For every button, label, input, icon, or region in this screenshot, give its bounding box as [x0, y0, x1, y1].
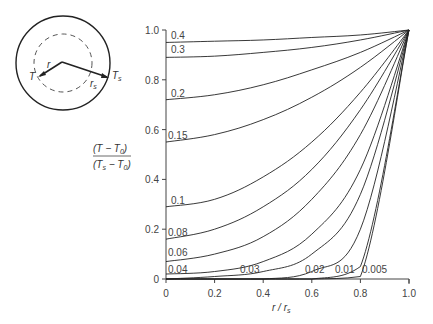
- curve-0.06: [166, 30, 409, 262]
- inset-label-T: T: [29, 71, 36, 82]
- y-axis-label: (T − T0) (Ts − T0): [93, 143, 131, 171]
- cylinder-inset-diagram: T r Ts rs: [16, 16, 122, 110]
- curve-labels: 0.40.30.20.150.10.080.060.040.030.020.01…: [168, 30, 387, 275]
- axes: [166, 30, 409, 284]
- curve-0.04: [166, 30, 409, 274]
- curve-label: 0.4: [171, 30, 185, 41]
- svg-text:(T − T0): (T − T0): [93, 143, 127, 155]
- temperature-profile-chart: T r Ts rs (T − T0) (Ts − T0) 00.20.40.60…: [0, 0, 433, 324]
- x-tick-label: 0.4: [256, 288, 270, 299]
- inset-label-rs: rs: [90, 78, 97, 90]
- curve-label: 0.01: [335, 264, 355, 275]
- curve-0.2: [166, 30, 409, 100]
- curve-label: 0.15: [168, 130, 188, 141]
- curve-label: 0.08: [168, 227, 188, 238]
- curve-label: 0.02: [305, 264, 325, 275]
- y-tick-label: 0.8: [145, 75, 159, 86]
- curve-label: 0.3: [171, 44, 185, 55]
- curve-label: 0.1: [171, 195, 185, 206]
- x-tick-label: 0.2: [208, 288, 222, 299]
- curves: [166, 30, 409, 279]
- y-tick-label: 0.2: [145, 224, 159, 235]
- curve-label: 0.005: [362, 264, 387, 275]
- curve-0.005: [166, 30, 409, 279]
- y-tick-label: 0.4: [145, 174, 159, 185]
- curve-label: 0.2: [171, 88, 185, 99]
- svg-text:(Ts − T0): (Ts − T0): [93, 159, 131, 171]
- y-tick-label: 1.0: [145, 25, 159, 36]
- radius-arrow-rs: [62, 62, 107, 77]
- x-tick-label: 0.6: [305, 288, 319, 299]
- curve-0.02: [166, 30, 409, 279]
- y-tick-label: 0.6: [145, 125, 159, 136]
- x-tick-label: 0: [163, 288, 169, 299]
- y-tick-label: 0: [153, 274, 159, 285]
- x-tick-label: 0.8: [353, 288, 367, 299]
- curve-label: 0.04: [168, 264, 188, 275]
- x-tick-label: 1.0: [402, 288, 416, 299]
- arrowhead-r: [38, 71, 46, 77]
- curve-0.08: [166, 30, 409, 239]
- curve-0.01: [166, 30, 409, 279]
- curve-label: 0.03: [240, 264, 260, 275]
- curve-0.4: [166, 30, 409, 42]
- inset-label-r: r: [47, 59, 51, 70]
- inset-label-Ts: Ts: [112, 70, 122, 82]
- x-axis-label: r / rs: [272, 302, 291, 314]
- curve-0.03: [166, 30, 409, 279]
- curve-label: 0.06: [168, 247, 188, 258]
